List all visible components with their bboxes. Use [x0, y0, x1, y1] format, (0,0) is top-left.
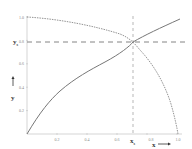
right-arrow-head-icon — [168, 143, 171, 146]
x-axis-label-group: x — [152, 141, 171, 149]
y-axis-label-group: y — [11, 76, 15, 102]
dashed-curve — [27, 17, 178, 134]
y-tick-label: 0.2 — [19, 108, 24, 113]
y-axis-label: y — [11, 94, 15, 102]
chart-canvas: 0.2 0.4 0.6 0.8 1.0 0.2 0.4 0.6 0.8 1.0 … — [0, 0, 192, 149]
x-s-label: xs — [130, 137, 136, 146]
x-tick-label: 1.0 — [176, 137, 181, 142]
x-tick-label: 0.6 — [115, 137, 120, 142]
y-tick-label: 1.0 — [19, 15, 24, 20]
x-tick-label: 0.2 — [55, 137, 60, 142]
solid-curve — [27, 19, 180, 134]
y-tick-label: 0.6 — [19, 61, 24, 66]
y-tick-label: 0.4 — [19, 85, 24, 90]
y-s-label: ys — [13, 38, 19, 47]
x-axis-label: x — [152, 141, 156, 149]
y-tick-label: 0.8 — [19, 39, 24, 44]
up-arrow-head-icon — [12, 76, 15, 79]
x-tick-label: 0.4 — [85, 137, 90, 142]
